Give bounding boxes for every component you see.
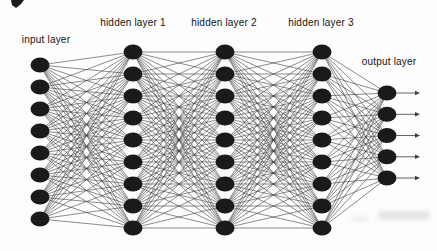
neuron-node [313,67,332,82]
neuron-node [378,128,397,143]
output-arrowhead-icon [415,91,420,96]
connection-line [322,114,387,228]
neuron-node [124,89,143,104]
scan-smudge [378,211,430,220]
connection-line [40,52,133,65]
neuron-node [124,45,143,60]
neuron-node [31,146,50,161]
output-arrowhead-icon [415,112,420,117]
neural-network-diagram: input layer hidden layer 1 hidden layer … [0,0,437,251]
neuron-node [31,58,50,73]
output-arrowhead-icon [415,176,420,181]
neuron-node [124,155,143,170]
hidden-layer-3-label: hidden layer 3 [288,17,354,28]
neuron-node [124,221,143,236]
scan-smudge [352,216,368,222]
connection-line [40,52,133,109]
connection-line [40,52,133,153]
neuron-node [313,133,332,148]
neuron-node [313,177,332,192]
neuron-node [313,45,332,60]
hidden-layer-1-label: hidden layer 1 [100,17,166,28]
neuron-node [124,133,143,148]
neuron-node [124,111,143,126]
output-arrowhead-icon [415,155,420,160]
neuron-node [31,124,50,139]
neuron-node [313,111,332,126]
neuron-node [124,67,143,82]
hidden-layer-2-label: hidden layer 2 [191,17,257,28]
neuron-node [216,89,235,104]
neuron-node [216,177,235,192]
input-layer-nodes [31,58,50,227]
neuron-node [124,177,143,192]
scan-artifact-mark [11,0,24,8]
neuron-node [31,168,50,183]
neuron-node [31,212,50,227]
neuron-node [313,221,332,236]
hidden2-layer-nodes [216,45,235,236]
neuron-node [216,133,235,148]
connection-line [40,52,133,197]
neuron-node [313,89,332,104]
neuron-node [313,199,332,214]
neuron-node [378,171,397,186]
neuron-node [378,86,397,101]
neuron-node [216,111,235,126]
neuron-node [378,149,397,164]
neuron-node [31,190,50,205]
neuron-node [31,102,50,117]
neuron-node [216,155,235,170]
connection-line [322,96,387,136]
connections [40,52,387,228]
output-layer-label: output layer [362,56,417,67]
hidden3-layer-nodes [313,45,332,236]
input-layer-label: input layer [22,34,70,45]
output-arrowhead-icon [415,133,420,138]
neuron-node [216,221,235,236]
neuron-node [216,67,235,82]
neuron-node [216,45,235,60]
neuron-node [124,199,143,214]
neuron-node [31,80,50,95]
neuron-node [378,107,397,122]
neuron-node [313,155,332,170]
neuron-node [216,199,235,214]
connection-line [40,74,133,219]
hidden1-layer-nodes [124,45,143,236]
output-arrows [397,91,421,181]
